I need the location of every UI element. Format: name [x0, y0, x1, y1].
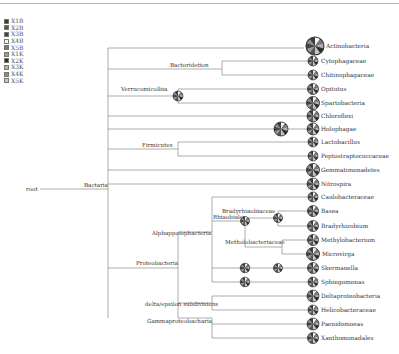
pie-chart-icon — [308, 262, 319, 273]
pie-chart-icon — [308, 137, 318, 147]
pie-chart-icon — [241, 216, 250, 225]
pie-chart-icon — [308, 220, 319, 231]
leaf-label: Bradyrhizobium — [321, 223, 369, 230]
pie-chart-icon — [173, 91, 183, 101]
pie-chart-icon — [240, 263, 250, 273]
leaf-label: Actinobacteria — [325, 43, 370, 49]
leaf-label: Cytophagaceae — [321, 58, 367, 65]
pie-chart-icon — [308, 83, 319, 94]
pie-chart-icon — [307, 110, 319, 122]
leaf-label: Xanthomonadales — [321, 335, 373, 341]
pie-chart-icon — [308, 234, 319, 245]
leaf-label: Caulobacteraceae — [321, 194, 375, 200]
pie-chart-icon — [307, 178, 319, 190]
pie-chart-icon — [307, 123, 319, 135]
leaf-label: Deltaproteobacteria — [321, 293, 381, 300]
node-label-bacteroidetes: Bactoridetion — [170, 62, 209, 68]
pie-chart-icon — [240, 277, 250, 287]
leaf-label: Methylobacterium — [321, 237, 376, 244]
leaf-label: Chitinophagaceae — [321, 72, 375, 79]
leaf-label: Holophagae — [321, 126, 357, 133]
pie-chart-icon — [274, 213, 283, 222]
pie-chart-icon — [308, 305, 318, 315]
pie-chart-icon — [306, 37, 324, 55]
leaf-label: Skermanella — [321, 265, 359, 271]
leaf-label: Paenidomoeas — [321, 321, 363, 327]
node-label-proteobacteria: Proteobacteria — [136, 260, 179, 266]
leaf-label: Sphingomonas — [321, 279, 364, 286]
pie-chart-icon — [307, 96, 320, 109]
leaf-label: Lactobacillus — [321, 139, 360, 145]
pie-chart-icon — [308, 192, 318, 202]
leaf-label: Nitrospira — [321, 181, 352, 188]
node-label-firmicutes: Firmicutes — [142, 142, 173, 148]
pie-chart-icon — [307, 318, 319, 330]
node-label-gammaproteobacteria: Gammaproteobacharia — [147, 318, 213, 325]
node-label-bradyrhizobiaceae: Bradyrhiaobiaceae — [222, 208, 276, 215]
pie-chart-icon — [307, 290, 319, 302]
pie-chart-icon — [274, 263, 283, 272]
leaf-label: Opitutus — [321, 86, 346, 93]
node-label-methylobacteriaceae: Metholobacteriaceae — [225, 239, 286, 245]
leaf-label: Microvirga — [322, 251, 355, 258]
pie-chart-icon — [308, 205, 319, 216]
phylogenetic-tree: root Bactaria Bactoridetion Verrucomicol… — [0, 0, 399, 354]
leaf-label: Spartobacteria — [321, 100, 366, 107]
pie-chart-icon — [307, 163, 320, 176]
pie-chart-icon — [308, 56, 318, 66]
pie-chart-icon — [274, 122, 288, 136]
root-label: root — [26, 186, 38, 192]
pie-chart-icon — [308, 151, 318, 161]
pie-chart-icon — [308, 277, 318, 287]
leaf-label: Helicobacteraceae — [321, 307, 376, 313]
pie-chart-icon — [307, 247, 320, 260]
pie-chart-icon — [308, 70, 318, 80]
node-label-deltaepsilon: delta/epsilon subdivisions — [145, 301, 218, 308]
leaf-label: Chloroflexi — [321, 113, 353, 119]
leaf-label: Gemmatimonadetes — [321, 167, 380, 173]
leaf-label: Peptostraptococcaceae — [321, 153, 389, 160]
node-label-alphaproteobacteria: Alphappoiophacteria — [151, 230, 212, 237]
pie-chart-icon — [308, 332, 319, 343]
node-label-verrucomicrobia: Verrucomicolbia — [120, 86, 168, 92]
node-label-bactaria: Bactaria — [84, 182, 109, 188]
leaf-label: Basea — [321, 208, 339, 214]
